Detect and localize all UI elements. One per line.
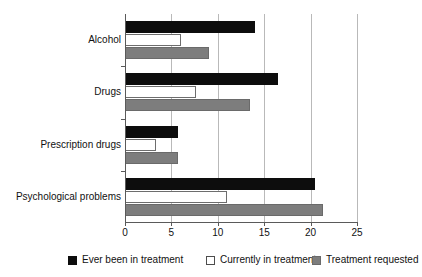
bar [125, 21, 255, 33]
y-tick-mark [121, 66, 125, 67]
x-tick-label: 0 [122, 227, 128, 239]
x-tick-mark [357, 222, 358, 226]
legend-item: Treatment requested [312, 254, 418, 266]
legend-swatch-gray [312, 256, 321, 265]
x-tick-mark [264, 222, 265, 226]
legend-label: Treatment requested [326, 254, 418, 266]
gridline [357, 14, 358, 223]
legend-label: Ever been in treatment [82, 254, 183, 266]
x-tick-label: 25 [351, 227, 362, 239]
gridline [311, 14, 312, 223]
x-tick-mark [125, 222, 126, 226]
bar [125, 204, 323, 216]
bar [125, 191, 227, 203]
x-axis-line [125, 222, 357, 223]
legend-swatch-white [206, 256, 215, 265]
bar [125, 178, 315, 190]
bar [125, 152, 178, 164]
x-tick-label: 15 [259, 227, 270, 239]
category-label: Prescription drugs [40, 139, 121, 150]
chart-legend: Ever been in treatmentCurrently in treat… [0, 250, 422, 270]
x-tick-mark [218, 222, 219, 226]
legend-item: Ever been in treatment [68, 254, 183, 266]
y-axis-line [125, 14, 126, 223]
bar [125, 86, 196, 98]
bar [125, 139, 156, 151]
x-tick-label: 10 [212, 227, 223, 239]
legend-item: Currently in treatment [206, 254, 316, 266]
category-label: Psychological problems [16, 191, 121, 202]
y-tick-mark [121, 119, 125, 120]
bar [125, 34, 181, 46]
plot-area [125, 14, 357, 223]
legend-swatch-black [68, 256, 77, 265]
legend-label: Currently in treatment [220, 254, 316, 266]
x-tick-label: 20 [305, 227, 316, 239]
gridline [264, 14, 265, 223]
bar [125, 47, 209, 59]
bar [125, 126, 178, 138]
category-label: Alcohol [88, 34, 121, 45]
bar [125, 73, 278, 85]
bar [125, 99, 250, 111]
horizontal-bar-chart: 0510152025AlcoholDrugsPrescription drugs… [0, 0, 422, 277]
y-tick-mark [121, 171, 125, 172]
x-tick-mark [171, 222, 172, 226]
x-tick-mark [311, 222, 312, 226]
category-label: Drugs [94, 86, 121, 97]
x-tick-label: 5 [169, 227, 175, 239]
